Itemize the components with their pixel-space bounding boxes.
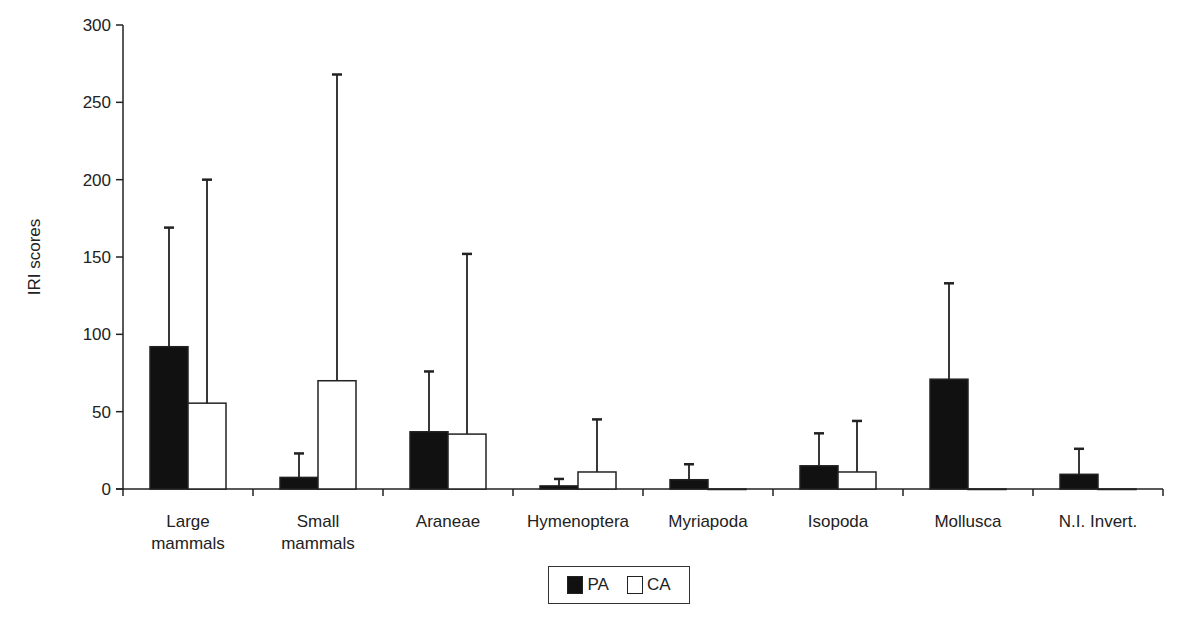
bar-pa — [800, 466, 838, 489]
legend: PA CA — [548, 566, 690, 604]
bar-ca — [448, 434, 486, 489]
bar-chart: 050100150200250300 LargemammalsSmallmamm… — [0, 0, 1187, 623]
x-tick-label: N.I. Invert. — [1059, 512, 1137, 531]
y-axis-label: IRI scores — [25, 219, 44, 296]
x-tick-label: Araneae — [416, 512, 480, 531]
x-tick-label: Largemammals — [151, 512, 225, 553]
bar-ca — [968, 489, 1006, 490]
bar-pa — [670, 480, 708, 489]
bar-pa — [150, 347, 188, 489]
y-axis: 050100150200250300 — [83, 16, 123, 499]
x-tick-label: Mollusca — [934, 512, 1002, 531]
legend-label-ca: CA — [647, 575, 671, 595]
bar-pa — [410, 432, 448, 489]
y-tick-label: 300 — [83, 16, 111, 35]
y-tick-label: 0 — [102, 480, 111, 499]
x-tick-label: Isopoda — [808, 512, 869, 531]
bar-ca — [838, 472, 876, 489]
y-tick-label: 250 — [83, 93, 111, 112]
bar-pa — [280, 477, 318, 489]
y-tick-label: 50 — [92, 403, 111, 422]
x-axis: LargemammalsSmallmammalsAraneaeHymenopte… — [116, 489, 1163, 553]
x-tick-label: Hymenoptera — [527, 512, 630, 531]
bar-ca — [318, 381, 356, 489]
bar-ca — [188, 403, 226, 489]
x-tick-label: Smallmammals — [281, 512, 355, 553]
ca-swatch-icon — [627, 576, 643, 594]
y-tick-label: 150 — [83, 248, 111, 267]
legend-label-pa: PA — [587, 575, 608, 595]
bar-ca — [578, 472, 616, 489]
pa-swatch-icon — [567, 576, 583, 594]
bar-ca — [708, 489, 746, 490]
bar-pa — [540, 486, 578, 489]
legend-item-pa: PA — [567, 575, 608, 595]
bars-group — [150, 74, 1136, 489]
x-tick-label: Myriapoda — [668, 512, 748, 531]
y-tick-label: 200 — [83, 171, 111, 190]
bar-ca — [1098, 489, 1136, 490]
legend-item-ca: CA — [627, 575, 671, 595]
bar-pa — [930, 379, 968, 489]
bar-pa — [1060, 474, 1098, 489]
y-tick-label: 100 — [83, 325, 111, 344]
